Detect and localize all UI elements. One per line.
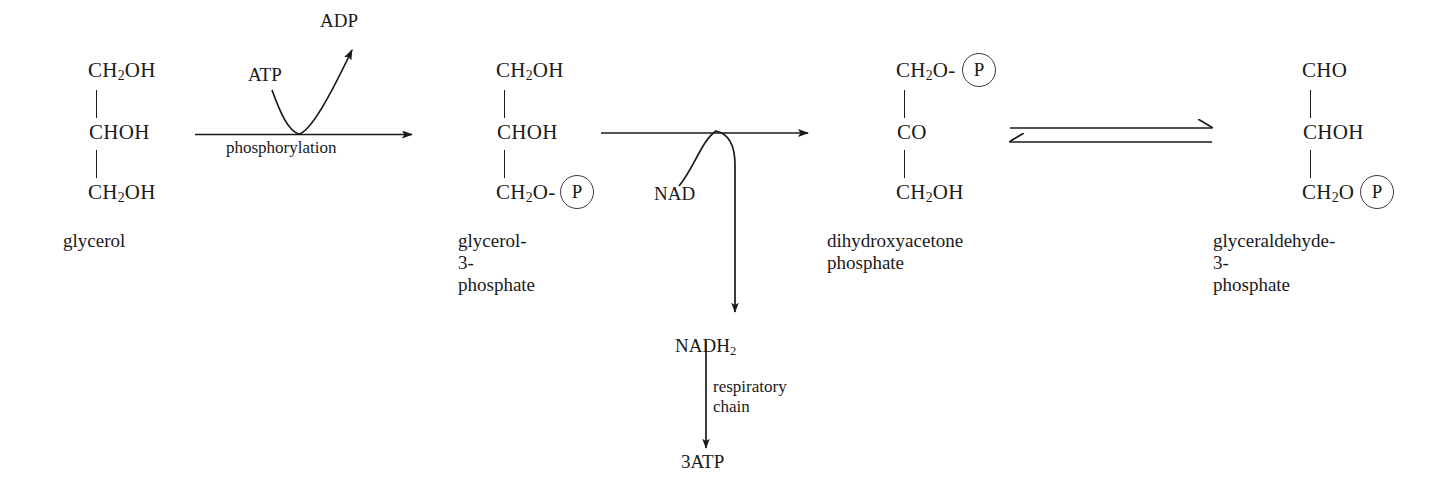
- bond-g3p-1: [504, 90, 505, 118]
- phosphate-circle-dhap: P: [962, 53, 996, 87]
- formula-g3p-c3: CH2O-: [496, 182, 555, 205]
- label-3atp: 3ATP: [681, 451, 724, 473]
- bond-glycerol-1: [96, 90, 97, 118]
- caption-glyceraldehyde-3-phosphate: glyceraldehyde-3- phosphate: [1213, 230, 1335, 297]
- bond-g3p-2: [504, 150, 505, 178]
- formula-glycerol-c1: CH2OH: [88, 60, 156, 83]
- caption-glycerol-3-phosphate: glycerol-3- phosphate: [458, 230, 535, 297]
- bond-glycerol-2: [96, 150, 97, 178]
- bond-dhap-1: [904, 90, 905, 118]
- formula-g3p-c2: CHOH: [497, 122, 558, 143]
- bond-gap-1: [1310, 90, 1311, 118]
- label-nadh2: NADH2: [675, 313, 736, 359]
- label-atp: ATP: [248, 64, 282, 86]
- label-nad: NAD: [654, 183, 695, 205]
- formula-g3p-c1: CH2OH: [496, 60, 564, 83]
- formula-dhap-c2: CO: [897, 122, 927, 143]
- formula-gap-c2: CHOH: [1303, 122, 1364, 143]
- pathway-diagram: CH2OH CHOH CH2OH glycerol ATP ADP phosph…: [0, 0, 1455, 503]
- formula-dhap-c3: CH2OH: [896, 182, 964, 205]
- phosphate-circle-gap: P: [1360, 175, 1394, 209]
- label-adp: ADP: [320, 10, 358, 32]
- label-phosphorylation: phosphorylation: [226, 138, 337, 158]
- caption-glycerol: glycerol: [63, 230, 125, 252]
- arrow-isomerization-equilibrium: [1010, 128, 1212, 142]
- arrow-nad-to-nadh2: [679, 131, 735, 312]
- formula-gap-c1: CHO: [1302, 60, 1347, 81]
- formula-gap-c3: CH2O: [1302, 182, 1354, 205]
- formula-glycerol-c2: CHOH: [89, 122, 150, 143]
- formula-glycerol-c3: CH2OH: [88, 182, 156, 205]
- bond-dhap-2: [904, 150, 905, 178]
- phosphate-circle-g3p: P: [560, 175, 594, 209]
- label-respiratory-chain: respiratory chain: [713, 377, 787, 417]
- formula-dhap-c1: CH2O-: [896, 60, 955, 83]
- arrow-atp-to-adp: [272, 50, 352, 134]
- bond-gap-2: [1310, 150, 1311, 178]
- caption-dihydroxyacetone-phosphate: dihydroxyacetone phosphate: [827, 230, 963, 274]
